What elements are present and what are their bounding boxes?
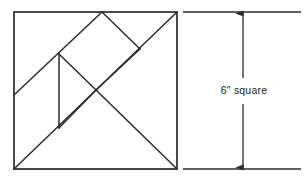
tangram-figure: 6" square [0, 0, 304, 180]
figure-canvas: 6" square [0, 0, 304, 180]
dimension-label: 6" square [221, 84, 267, 96]
